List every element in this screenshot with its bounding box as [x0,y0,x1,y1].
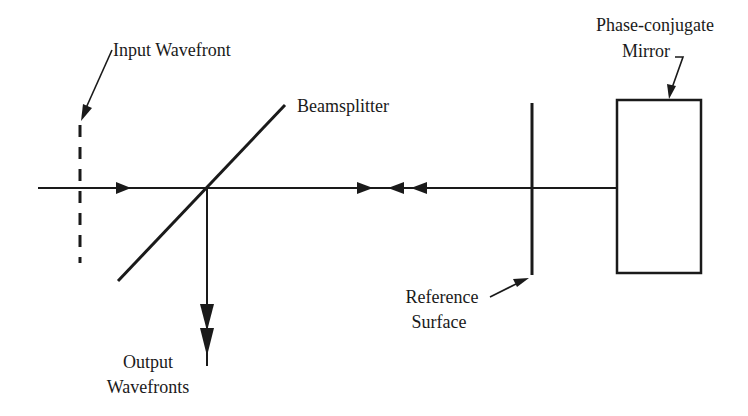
label-mirror: Mirror [622,41,670,61]
label-phase-conjugate: Phase-conjugate [596,15,714,35]
label-input-wavefront: Input Wavefront [113,40,231,60]
arrow-down-icon [200,328,214,356]
leader-arrowhead-icon [667,84,676,99]
mirror-leader [672,57,683,88]
label-surface: Surface [412,312,467,332]
arrow-left-icon [388,182,404,194]
phase-conjugate-mirror-box [617,100,701,273]
leader-arrowhead-icon [513,278,529,287]
label-beamsplitter: Beamsplitter [297,96,389,116]
optical-diagram: Input Wavefront Beamsplitter Phase-conju… [0,0,748,416]
label-reference: Reference [406,287,479,307]
arrow-down-icon [200,304,214,331]
arrow-right-icon [357,182,373,194]
arrow-right-icon [116,182,131,194]
input-wavefront-leader [86,50,112,108]
reference-surface-leader [490,284,516,297]
arrow-left-icon [411,182,427,194]
leader-arrowhead-icon [81,104,92,121]
label-wavefronts: Wavefronts [107,377,190,397]
beamsplitter-line [118,105,285,281]
label-output: Output [123,352,173,372]
